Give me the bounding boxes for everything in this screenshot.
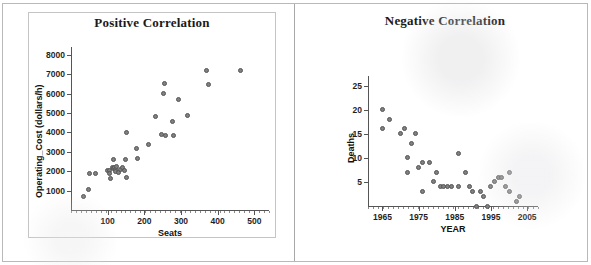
x-tick-right [455, 207, 456, 211]
x-minor-tick-left [269, 211, 270, 213]
x-minor-tick-left [215, 211, 216, 213]
x-minor-tick-right [463, 207, 464, 209]
x-tick-label-left: 500 [247, 216, 261, 226]
x-axis-title-right: YEAR [440, 224, 465, 234]
x-minor-tick-left [175, 211, 176, 213]
x-minor-tick-left [106, 211, 107, 213]
figure-frame: Positive Correlation 1002003004005001000… [0, 0, 591, 265]
panel-negative-correlation: Negative Correlation 1965197519851995200… [295, 0, 591, 265]
x-minor-tick-left [239, 211, 240, 213]
x-minor-tick-left [130, 211, 131, 213]
y-tick-label-right: 15 [328, 129, 362, 139]
data-point-right [405, 170, 410, 175]
x-minor-tick-left [234, 211, 235, 213]
x-tick-label-right: 1995 [482, 212, 501, 222]
data-point-right [492, 179, 497, 184]
x-minor-tick-left [200, 211, 201, 213]
data-point-right [456, 184, 461, 189]
x-minor-tick-right [433, 207, 434, 209]
panel-positive-correlation: Positive Correlation 1002003004005001000… [0, 0, 295, 265]
data-point-right [387, 117, 392, 122]
data-point-left [87, 171, 92, 176]
x-minor-tick-left [224, 211, 225, 213]
data-point-right [420, 160, 425, 165]
y-tick-left [67, 55, 71, 56]
x-minor-tick-left [195, 211, 196, 213]
data-point-left [124, 130, 129, 135]
x-minor-tick-left [264, 211, 265, 213]
x-minor-tick-left [125, 211, 126, 213]
data-point-left [171, 133, 176, 138]
x-minor-tick-right [408, 207, 409, 209]
y-tick-right [364, 110, 368, 111]
x-tick-left [218, 211, 219, 215]
y-tick-right [364, 182, 368, 183]
y-tick-left [67, 74, 71, 75]
y-tick-left [67, 94, 71, 95]
x-minor-tick-left [71, 211, 72, 213]
x-minor-tick-right [368, 207, 369, 209]
x-minor-tick-left [76, 211, 77, 213]
data-point-left [93, 171, 98, 176]
data-point-right [402, 126, 407, 131]
x-minor-tick-right [493, 207, 494, 209]
data-point-left [134, 146, 139, 151]
x-minor-tick-right [373, 207, 374, 209]
data-point-left [122, 168, 127, 173]
x-minor-tick-left [229, 211, 230, 213]
x-minor-tick-left [220, 211, 221, 213]
x-minor-tick-left [91, 211, 92, 213]
y-tick-right [364, 86, 368, 87]
data-point-left [238, 68, 243, 73]
data-point-left [135, 156, 140, 161]
x-minor-tick-left [121, 211, 122, 213]
y-tick-left [67, 152, 71, 153]
x-minor-tick-right [518, 207, 519, 209]
data-point-left [204, 68, 209, 73]
x-tick-left [181, 211, 182, 215]
x-minor-tick-right [388, 207, 389, 209]
data-point-right [416, 165, 421, 170]
y-axis-title-right: Deaths [346, 133, 356, 163]
x-tick-label-left: 200 [137, 216, 151, 226]
x-minor-tick-right [533, 207, 534, 209]
y-tick-label-left: 8000 [31, 50, 65, 60]
data-point-right [514, 199, 519, 204]
data-point-left [124, 175, 129, 180]
data-point-right [507, 170, 512, 175]
x-minor-tick-right [428, 207, 429, 209]
x-minor-tick-right [538, 207, 539, 209]
data-point-right [481, 194, 486, 199]
x-minor-tick-left [160, 211, 161, 213]
x-tick-right [527, 207, 528, 211]
x-minor-tick-right [378, 207, 379, 209]
x-minor-tick-right [523, 207, 524, 209]
x-minor-tick-left [140, 211, 141, 213]
y-tick-left [67, 113, 71, 114]
data-point-right [456, 151, 461, 156]
x-minor-tick-left [101, 211, 102, 213]
x-minor-tick-right [423, 207, 424, 209]
x-minor-tick-left [244, 211, 245, 213]
y-tick-left [67, 132, 71, 133]
data-point-right [405, 155, 410, 160]
x-minor-tick-right [513, 207, 514, 209]
x-minor-tick-right [528, 207, 529, 209]
x-tick-label-right: 2005 [518, 212, 537, 222]
x-minor-tick-right [438, 207, 439, 209]
x-minor-tick-right [443, 207, 444, 209]
data-point-left [86, 187, 91, 192]
x-tick-label-left: 400 [211, 216, 225, 226]
data-point-left [153, 114, 158, 119]
data-point-right [507, 189, 512, 194]
x-minor-tick-left [150, 211, 151, 213]
data-point-right [485, 204, 490, 209]
data-point-left [161, 91, 166, 96]
data-point-right [517, 194, 522, 199]
x-minor-tick-left [155, 211, 156, 213]
data-point-right [409, 141, 414, 146]
x-minor-tick-right [448, 207, 449, 209]
x-minor-tick-right [398, 207, 399, 209]
data-point-right [398, 131, 403, 136]
data-point-left [170, 119, 175, 124]
